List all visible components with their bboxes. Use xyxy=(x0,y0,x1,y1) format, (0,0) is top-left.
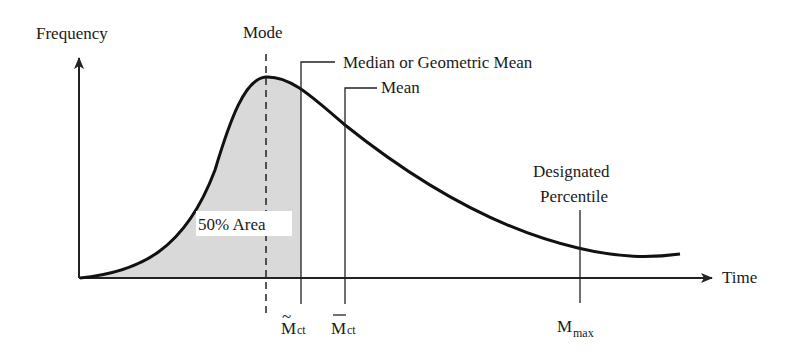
percentile-label-line1: Designated xyxy=(533,162,610,181)
shaded-area xyxy=(80,77,301,278)
mean-label: Mean xyxy=(381,78,420,97)
median-tick-label: ~ M ct xyxy=(281,307,306,338)
area-label: 50% Area xyxy=(198,215,266,234)
x-axis-label: Time xyxy=(722,268,757,287)
distribution-diagram: Frequency Mode Median or Geometric Mean … xyxy=(0,0,802,354)
max-tick-label: M max xyxy=(557,317,594,340)
svg-text:ct: ct xyxy=(297,323,306,337)
svg-text:M: M xyxy=(281,319,296,338)
median-line xyxy=(301,62,335,304)
mode-label: Mode xyxy=(243,23,283,42)
median-label: Median or Geometric Mean xyxy=(343,53,533,72)
svg-text:M: M xyxy=(331,319,346,338)
svg-text:ct: ct xyxy=(347,323,356,337)
y-axis-label: Frequency xyxy=(36,24,108,43)
svg-text:max: max xyxy=(573,326,594,340)
mean-tick-label: M ct xyxy=(331,315,356,338)
svg-text:M: M xyxy=(557,317,572,336)
mean-line xyxy=(345,88,377,304)
percentile-label-line2: Percentile xyxy=(540,187,608,206)
